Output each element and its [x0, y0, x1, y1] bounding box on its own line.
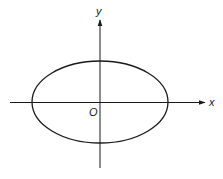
ellipse-diagram: y x O [0, 0, 223, 179]
y-axis-label: y [95, 5, 103, 17]
x-axis-label: x [208, 96, 215, 108]
origin-label: O [89, 106, 98, 118]
